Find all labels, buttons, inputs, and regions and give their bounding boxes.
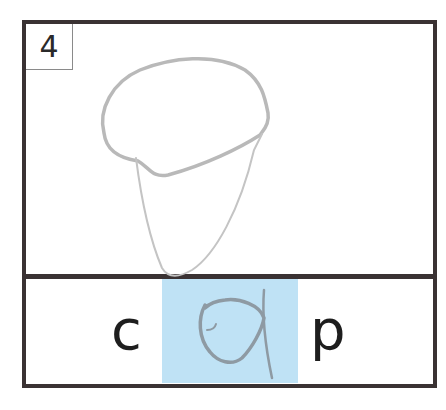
cap-sketch-drawing xyxy=(0,0,446,410)
letter-first: c xyxy=(111,300,142,360)
letter-last: p xyxy=(310,300,346,360)
